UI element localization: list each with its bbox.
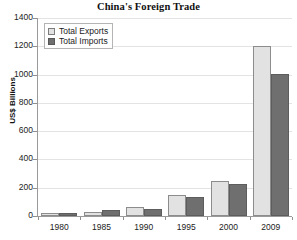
y-tick-label: 800: [3, 98, 33, 107]
bar-group: [211, 18, 247, 216]
bar-total-imports-2000: [229, 184, 247, 216]
legend-item-total-imports: Total Imports: [48, 36, 108, 46]
y-tick-label: 1400: [3, 13, 33, 22]
bar-total-exports-2000: [211, 181, 229, 216]
legend-label-exports: Total Exports: [59, 27, 108, 36]
x-tick-label-1985: 1985: [80, 222, 122, 232]
x-tick-mark: [165, 217, 166, 220]
bar-total-exports-1990: [126, 207, 144, 216]
y-tick-label: 200: [3, 183, 33, 192]
bar-total-imports-2009: [271, 74, 289, 216]
chart-legend: Total Exports Total Imports: [44, 23, 113, 49]
x-tick-label-2009: 2009: [250, 222, 292, 232]
y-tick-label: 600: [3, 126, 33, 135]
bar-total-imports-1980: [59, 213, 77, 216]
x-tick-label-1980: 1980: [38, 222, 80, 232]
bar-group: [168, 18, 204, 216]
legend-swatch-imports-icon: [48, 38, 55, 45]
bar-total-exports-1980: [41, 213, 59, 216]
x-tick-mark: [123, 217, 124, 220]
bar-group: [253, 18, 289, 216]
bar-total-imports-1990: [144, 209, 162, 216]
legend-swatch-exports-icon: [48, 28, 55, 35]
chart-container: China's Foreign Trade US$ Billions 02004…: [0, 0, 297, 240]
x-tick-mark: [292, 217, 293, 220]
y-tick-label: 400: [3, 154, 33, 163]
x-tick-label-1995: 1995: [165, 222, 207, 232]
y-tick-label: 1200: [3, 41, 33, 50]
y-tick-label: 1000: [3, 70, 33, 79]
x-tick-mark: [207, 217, 208, 220]
bar-total-exports-1985: [84, 212, 102, 216]
y-tick-label: 0: [3, 211, 33, 220]
legend-item-total-exports: Total Exports: [48, 26, 108, 36]
x-tick-label-1990: 1990: [123, 222, 165, 232]
bar-total-imports-1985: [102, 210, 120, 216]
x-tick-mark: [80, 217, 81, 220]
x-tick-label-2000: 2000: [207, 222, 249, 232]
bar-total-exports-2009: [253, 46, 271, 216]
bar-total-imports-1995: [186, 197, 204, 216]
chart-title: China's Foreign Trade: [0, 1, 297, 12]
x-tick-mark: [38, 217, 39, 220]
x-tick-mark: [250, 217, 251, 220]
bar-group: [126, 18, 162, 216]
legend-label-imports: Total Imports: [59, 37, 108, 46]
bar-total-exports-1995: [168, 195, 186, 216]
